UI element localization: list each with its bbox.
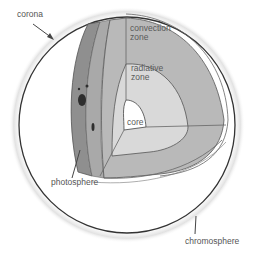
label-chromosphere: chromosphere <box>185 237 239 246</box>
label-corona: corona <box>17 10 43 19</box>
sunspot-large <box>78 94 86 106</box>
label-core: core <box>127 118 144 127</box>
label-convection-zone-2: zone <box>130 33 148 42</box>
label-radiative-zone-2: zone <box>131 73 149 82</box>
sunspot-small-2 <box>86 85 89 88</box>
sunspot-small-1 <box>78 88 80 90</box>
sunspot-edge <box>92 123 95 131</box>
sun-structure-diagram: corona convection zone radiative zone co… <box>0 0 257 257</box>
label-photosphere: photosphere <box>51 178 98 187</box>
sun-diagram-graphic <box>0 0 257 257</box>
